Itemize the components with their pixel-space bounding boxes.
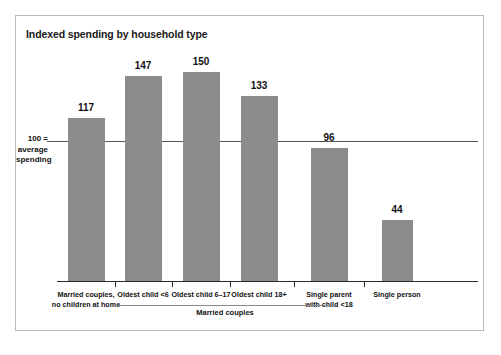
bar [125,76,162,282]
bar-value-label: 147 [113,60,173,71]
bar [382,220,413,282]
axis-tick [230,281,231,287]
bar-value-label: 44 [367,204,427,215]
bar-value-label: 96 [299,132,359,143]
bar [241,96,278,282]
bar [68,118,105,282]
category-label: Single person [353,290,441,300]
group-bracket-label: Married couples [113,308,337,317]
axis-tick [294,281,295,287]
axis-tick [364,281,365,287]
bar [183,72,220,282]
axis-tick [115,281,116,287]
x-axis-baseline [57,281,478,282]
bar-value-label: 117 [56,102,116,113]
y-axis-label-line-1: 100 = [16,134,48,145]
y-axis-label-line-2: average [16,145,48,156]
bar-value-label: 150 [171,56,231,67]
axis-tick [172,281,173,287]
bar [311,148,348,282]
chart-title: Indexed spending by household type [26,28,208,40]
bar-value-label: 133 [229,80,289,91]
category-label-line: Single person [353,290,441,300]
group-bracket-line [113,305,337,306]
chart-screenshot: Indexed spending by household type 100 =… [0,0,501,355]
y-axis-reference-label: 100 = average spending [16,134,48,166]
y-axis-label-line-3: spending [16,155,48,166]
